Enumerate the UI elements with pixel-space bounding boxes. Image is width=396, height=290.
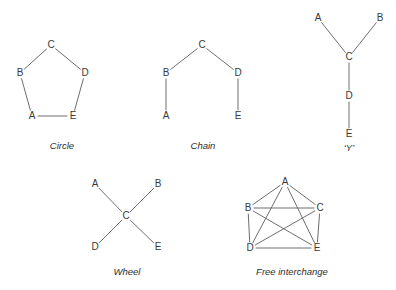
diagram-y-shape: ABCDE‘Y’ — [315, 12, 384, 153]
edge-B-C — [130, 188, 154, 212]
diagram-free-interchange: ABCDEFree interchange — [245, 176, 328, 277]
node-label-a: A — [282, 176, 289, 187]
node-label-b: B — [163, 67, 170, 78]
caption-free-interchange: Free interchange — [256, 266, 328, 277]
edge-A-C — [322, 23, 346, 53]
edge-C-D — [207, 49, 234, 70]
edge-C-D — [56, 49, 81, 69]
edge-group — [166, 49, 238, 110]
graph-canvas: ABCDECircleABCDEChainABCDE‘Y’ABCDEWheelA… — [0, 0, 396, 290]
edge-A-B — [22, 79, 31, 110]
node-label-a: A — [163, 110, 170, 121]
edge-C-E — [130, 220, 153, 243]
node-label-e: E — [155, 241, 162, 252]
node-label-d: D — [91, 241, 98, 252]
node-label-d: D — [246, 242, 253, 253]
diagram-wheel: ABCDEWheel — [91, 178, 161, 277]
edge-A-C — [99, 188, 122, 211]
node-label-a: A — [92, 178, 99, 189]
caption-circle: Circle — [50, 140, 74, 151]
caption-wheel: Wheel — [114, 266, 142, 277]
node-label-c: C — [316, 202, 323, 213]
node-label-b: B — [155, 178, 162, 189]
node-label-a: A — [315, 12, 322, 23]
network-diagram-figure: ABCDECircleABCDEChainABCDE‘Y’ABCDEWheelA… — [0, 0, 396, 290]
diagram-chain: ABCDEChain — [163, 39, 242, 151]
node-label-e: E — [346, 128, 353, 139]
caption-chain: Chain — [191, 140, 216, 151]
edge-A-E — [288, 187, 315, 242]
node-label-b: B — [17, 67, 24, 78]
edge-group — [322, 23, 377, 128]
caption-y-shape: ‘Y’ — [344, 142, 355, 153]
edge-D-E — [75, 79, 84, 110]
edge-B-C — [24, 49, 46, 69]
edge-C-E — [317, 214, 319, 242]
node-label-d: D — [345, 90, 352, 101]
edge-B-C — [171, 49, 198, 70]
node-label-b: B — [245, 202, 252, 213]
node-label-e: E — [235, 110, 242, 121]
node-label-b: B — [377, 12, 384, 23]
node-label-d: D — [81, 67, 88, 78]
diagram-circle: ABCDECircle — [17, 39, 89, 151]
node-label-e: E — [314, 242, 321, 253]
edge-group — [22, 49, 84, 116]
node-label-d: D — [234, 67, 241, 78]
node-label-c: C — [47, 39, 54, 50]
edge-B-C — [353, 23, 377, 53]
node-label-c: C — [122, 210, 129, 221]
edge-C-D — [99, 220, 122, 243]
edge-C-D — [255, 211, 315, 245]
edge-A-B — [253, 185, 280, 204]
edge-group — [248, 185, 319, 248]
node-label-c: C — [198, 39, 205, 50]
edge-B-E — [253, 211, 312, 245]
node-label-c: C — [345, 51, 352, 62]
node-label-e: E — [70, 110, 77, 121]
edge-B-D — [248, 214, 249, 242]
edge-A-C — [290, 186, 315, 205]
edge-A-D — [253, 187, 282, 242]
node-label-a: A — [29, 110, 36, 121]
